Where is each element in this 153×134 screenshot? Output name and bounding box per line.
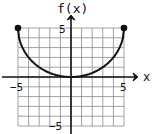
x-tick-min: −5 <box>10 81 23 94</box>
x-tick-max: 5 <box>120 81 127 94</box>
x-axis-label: x <box>143 70 150 84</box>
y-tick-min: −5 <box>49 120 62 133</box>
function-graph: f(x) x 5 −5 −5 5 <box>0 0 153 134</box>
right-endpoint-dot <box>121 25 128 32</box>
left-endpoint-dot <box>15 25 22 32</box>
y-tick-max: 5 <box>59 23 66 36</box>
y-axis-label: f(x) <box>57 1 88 16</box>
